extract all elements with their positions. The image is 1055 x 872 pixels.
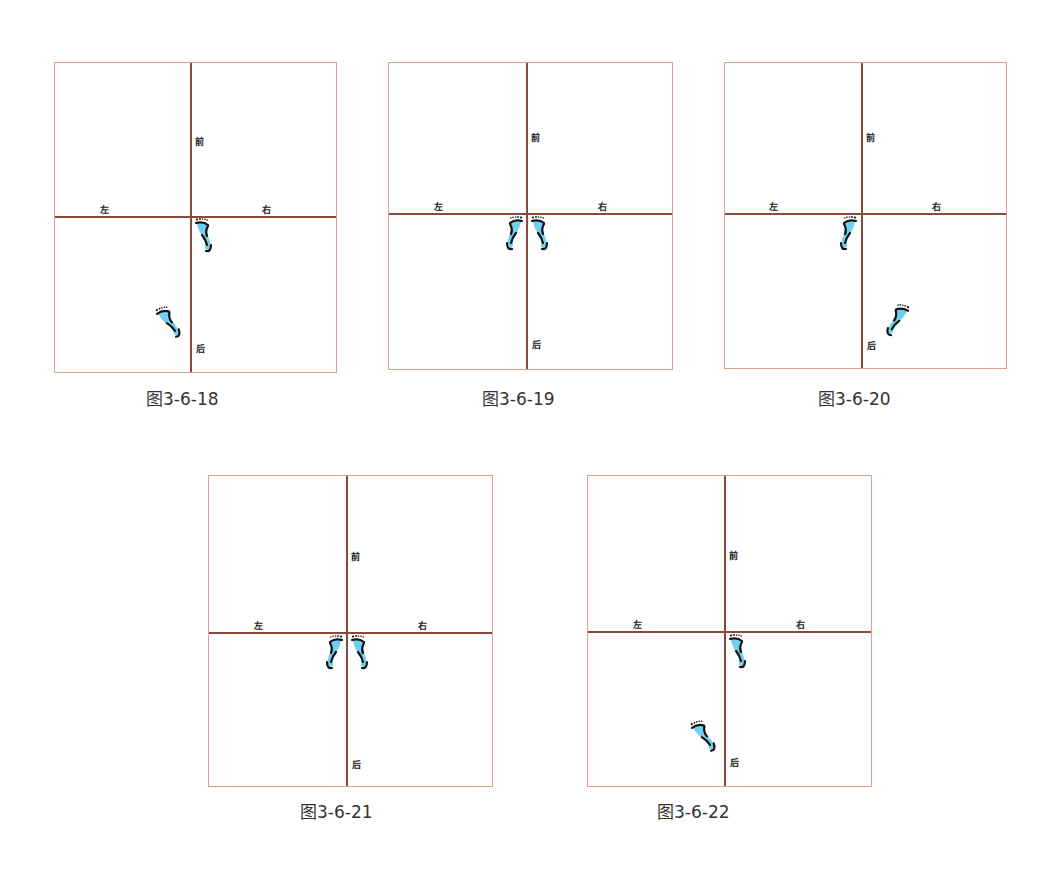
left-right-axis	[389, 213, 672, 215]
right-footprint-icon	[881, 301, 912, 341]
left-footprint-icon	[689, 716, 722, 757]
left-footprint-icon	[836, 216, 858, 252]
figure-3-6-21: 前 左 右 后 图3-6-21	[208, 475, 493, 820]
label-back: 后	[196, 345, 205, 354]
label-left: 左	[434, 203, 443, 212]
label-back: 后	[730, 759, 739, 768]
figure-3-6-22: 前 左 右 后 图3-6-22	[587, 475, 872, 820]
label-left: 左	[100, 206, 109, 215]
figure-3-6-18: 前 左 右 后 图3-6-18	[54, 62, 337, 407]
label-back: 后	[352, 761, 361, 770]
label-front: 前	[531, 134, 540, 143]
figure-caption: 图3-6-19	[482, 385, 555, 410]
diagram-frame: 前 左 右 后	[208, 475, 493, 787]
label-right: 右	[598, 203, 607, 212]
right-footprint-icon	[728, 634, 750, 670]
left-right-axis	[588, 631, 871, 633]
figure-caption: 图3-6-21	[300, 798, 373, 823]
left-right-axis	[209, 632, 492, 634]
figure-3-6-20: 前 左 右 后 图3-6-20	[724, 62, 1007, 407]
label-front: 前	[195, 138, 204, 147]
label-left: 左	[254, 622, 263, 631]
label-right: 右	[932, 203, 941, 212]
label-left: 左	[633, 621, 642, 630]
diagram-frame: 前 左 右 后	[587, 475, 872, 787]
front-back-axis	[526, 63, 528, 369]
label-left: 左	[769, 203, 778, 212]
figure-caption: 图3-6-20	[818, 385, 891, 410]
left-footprint-icon	[502, 216, 524, 252]
figure-3-6-19: 前 左 右 后 图3-6-19	[388, 62, 673, 407]
right-footprint-icon	[194, 218, 216, 254]
label-right: 右	[262, 206, 271, 215]
front-back-axis	[861, 63, 863, 368]
label-front: 前	[729, 552, 738, 561]
right-footprint-icon	[530, 216, 552, 252]
label-back: 后	[532, 341, 541, 350]
label-front: 前	[351, 553, 360, 562]
label-right: 右	[418, 622, 427, 631]
label-front: 前	[866, 134, 875, 143]
figure-caption: 图3-6-18	[146, 385, 219, 410]
label-back: 后	[867, 342, 876, 351]
left-right-axis	[725, 213, 1006, 215]
diagram-frame: 前 左 右 后	[54, 62, 337, 373]
label-right: 右	[796, 621, 805, 630]
left-footprint-icon	[154, 302, 187, 343]
diagram-frame: 前 左 右 后	[724, 62, 1007, 369]
diagram-frame: 前 左 右 后	[388, 62, 673, 370]
front-back-axis	[346, 476, 348, 786]
figure-caption: 图3-6-22	[657, 798, 730, 823]
right-footprint-icon	[350, 635, 372, 671]
left-footprint-icon	[322, 635, 344, 671]
